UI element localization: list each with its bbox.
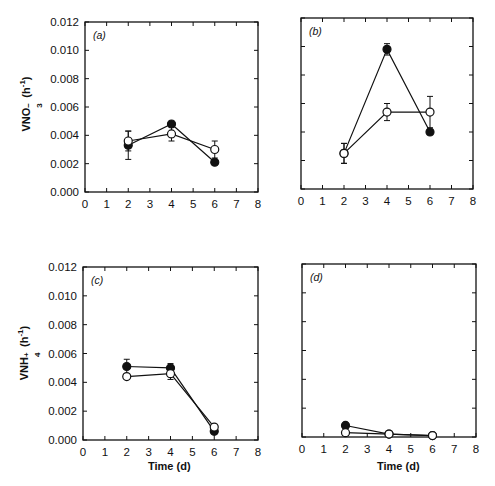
x-tick-label: 5	[189, 446, 195, 458]
x-tick-label: 0	[298, 195, 304, 207]
series-line-open	[127, 374, 215, 427]
x-axis-title-c: Time (d)	[148, 460, 191, 472]
open-circle-marker	[342, 429, 350, 437]
x-tick-label: 3	[145, 446, 151, 458]
x-tick-label: 8	[473, 443, 479, 455]
open-circle-marker	[167, 370, 175, 378]
ylabel-bottom-unit-sup: -1	[16, 329, 25, 336]
y-tick-label: 0.004	[48, 376, 77, 388]
x-tick-label: 8	[470, 195, 476, 207]
filled-circle-marker	[123, 362, 131, 370]
panel-label: (c)	[91, 274, 103, 286]
y-tick-label: 0.008	[48, 319, 77, 331]
filled-circle-marker	[383, 45, 391, 53]
plot-frame	[83, 267, 258, 440]
ylabel-bottom-unit: (h	[18, 337, 30, 347]
y-tick-label: 0.000	[50, 186, 79, 198]
panel-c: 0123456780.0000.0020.0040.0060.0080.0100…	[48, 261, 261, 458]
y-tick-label: 0.012	[50, 16, 79, 28]
y-tick-label: 0.000	[48, 434, 77, 446]
x-tick-label: 1	[321, 443, 327, 455]
ylabel-top-sup: −	[24, 103, 33, 108]
x-tick-label: 2	[342, 443, 348, 455]
x-tick-label: 4	[386, 443, 393, 455]
open-circle-marker	[211, 146, 219, 154]
y-tick-label: 0.006	[50, 101, 79, 113]
x-tick-label: 2	[341, 195, 347, 207]
x-tick-label: 0	[299, 443, 305, 455]
y-tick-label: 0.010	[48, 290, 77, 302]
x-tick-label: 3	[147, 198, 153, 210]
open-circle-marker	[429, 432, 437, 440]
ylabel-top-unit: (h	[20, 87, 32, 97]
panel-d: 012345678(d)	[299, 264, 479, 455]
panel-label: (a)	[93, 29, 106, 41]
open-circle-marker	[426, 108, 434, 116]
x-tick-label: 1	[319, 195, 325, 207]
open-circle-marker	[385, 430, 393, 438]
y-tick-label: 0.002	[48, 405, 77, 417]
open-circle-marker	[124, 137, 132, 145]
x-tick-label: 3	[362, 195, 368, 207]
plot-frame	[302, 264, 476, 437]
y-tick-label: 0.004	[50, 129, 79, 141]
panel-a: 0123456780.0000.0020.0040.0060.0080.0100…	[50, 16, 261, 210]
x-axis-title-d: Time (d)	[377, 460, 420, 472]
open-circle-marker	[210, 423, 218, 431]
x-tick-label: 7	[451, 443, 457, 455]
x-tick-label: 8	[255, 198, 261, 210]
x-tick-label: 4	[168, 198, 175, 210]
ylabel-top-text: VNO	[20, 108, 32, 132]
x-tick-label: 8	[255, 446, 261, 458]
ylabel-bottom-text: VNH	[18, 357, 30, 380]
ylabel-top-unit-sup: -1	[18, 80, 27, 87]
x-tick-label: 6	[429, 443, 435, 455]
open-circle-marker	[123, 373, 131, 381]
ylabel-top-close: )	[20, 76, 32, 80]
panel-label: (d)	[310, 271, 323, 283]
filled-circle-marker	[168, 120, 176, 128]
series-line-filled	[344, 49, 430, 153]
x-tick-label: 3	[364, 443, 370, 455]
panel-b: 012345678(b)	[298, 18, 476, 207]
x-tick-label: 6	[427, 195, 433, 207]
y-tick-label: 0.006	[48, 348, 77, 360]
x-tick-label: 7	[448, 195, 454, 207]
x-tick-label: 4	[167, 446, 174, 458]
figure-canvas: 0123456780.0000.0020.0040.0060.0080.0100…	[0, 0, 495, 486]
x-tick-label: 0	[82, 198, 88, 210]
plot-frame	[85, 22, 258, 192]
open-circle-marker	[383, 108, 391, 116]
ylabel-bottom-close: )	[18, 326, 30, 330]
open-circle-marker	[340, 149, 348, 157]
x-tick-label: 5	[190, 198, 196, 210]
x-tick-label: 5	[408, 443, 414, 455]
x-tick-label: 5	[405, 195, 411, 207]
x-tick-label: 4	[384, 195, 391, 207]
x-tick-label: 7	[233, 198, 239, 210]
ylabel-bottom-sub: 4	[33, 353, 42, 357]
x-tick-label: 1	[102, 446, 108, 458]
panel-label: (b)	[309, 25, 322, 37]
y-axis-title-top: VNO−3 (h-1)	[18, 44, 34, 164]
open-circle-marker	[168, 130, 176, 138]
x-tick-label: 6	[211, 446, 217, 458]
y-axis-title-bottom: VNH+4 (h-1)	[16, 293, 32, 413]
x-tick-label: 2	[125, 198, 131, 210]
x-tick-label: 6	[212, 198, 218, 210]
filled-circle-marker	[426, 128, 434, 136]
ylabel-top-sub: 3	[35, 103, 44, 107]
y-tick-label: 0.012	[48, 261, 77, 273]
x-tick-label: 1	[103, 198, 109, 210]
ylabel-bottom-sup: +	[22, 352, 31, 357]
y-tick-label: 0.002	[50, 158, 79, 170]
x-tick-label: 2	[124, 446, 130, 458]
y-tick-label: 0.008	[50, 73, 79, 85]
y-tick-label: 0.010	[50, 44, 79, 56]
filled-circle-marker	[211, 158, 219, 166]
x-tick-label: 0	[80, 446, 86, 458]
x-tick-label: 7	[233, 446, 239, 458]
